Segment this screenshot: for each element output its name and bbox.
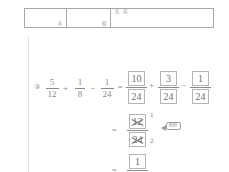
equals-sign-2: = — [112, 127, 117, 135]
given-fraction-3: 1 24 — [99, 78, 115, 99]
fraction-bar — [126, 87, 147, 88]
given-fraction-2-denominator: 8 — [73, 89, 87, 99]
step2-denominator: 24 — [133, 135, 143, 145]
fraction-bar — [127, 170, 148, 171]
given-fraction-2-numerator: 1 — [73, 78, 87, 88]
step1-denominator-box-1[interactable]: 24 — [128, 89, 145, 104]
given-fraction-1-numerator: 5 — [44, 78, 60, 88]
step1-numerator-box-2[interactable]: 3 — [160, 71, 177, 86]
step1-denominator-1: 24 — [132, 92, 142, 102]
fraction-bar — [190, 87, 211, 88]
fraction-bar — [127, 130, 148, 131]
plus-operator-2: + — [149, 81, 154, 90]
plus-operator-1: + — [63, 84, 68, 93]
given-fraction-1-denominator: 12 — [44, 89, 60, 99]
step1-boxed-fraction-3: 1 24 — [192, 71, 209, 104]
step1-denominator-box-2[interactable]: 24 — [160, 89, 177, 104]
given-fraction-3-denominator: 24 — [99, 89, 115, 99]
step1-boxed-fraction-2: 3 24 — [160, 71, 177, 104]
step1-numerator-box-3[interactable]: 1 — [192, 71, 209, 86]
step2-reduced-numerator: 1 — [150, 112, 154, 119]
year-cell-label: 年 — [58, 22, 62, 27]
problem-area: ③ 5 12 + 1 8 − 1 24 = 10 24 + 3 24 — [0, 34, 229, 172]
step2-reduced-denominator: 2 — [150, 138, 154, 145]
equals-sign-3: = — [112, 167, 117, 172]
step2-boxed-fraction: 12 24 — [129, 114, 146, 147]
year-cell[interactable]: 年 — [25, 9, 67, 27]
student-info-table: 年 組 名 前 — [24, 8, 214, 28]
minus-operator-1: − — [90, 84, 95, 93]
step1-denominator-3: 24 — [196, 92, 206, 102]
given-fraction-2: 1 8 — [73, 78, 87, 99]
name-cell[interactable]: 名 前 — [111, 9, 213, 27]
step2-numerator-box[interactable]: 12 — [129, 114, 146, 129]
minus-operator-2: − — [181, 81, 186, 90]
step1-denominator-2: 24 — [164, 92, 174, 102]
name-cell-label: 名 前 — [115, 10, 129, 15]
reduction-callout: 約分 — [166, 122, 181, 130]
fraction-bar — [158, 87, 179, 88]
step1-numerator-2: 3 — [166, 74, 171, 84]
answer-boxed-fraction: 1 2 — [129, 154, 146, 172]
given-fraction-1: 5 12 — [44, 78, 60, 99]
step1-numerator-box-1[interactable]: 10 — [128, 71, 145, 86]
step2-denominator-box[interactable]: 24 — [129, 132, 146, 147]
given-fraction-3-numerator: 1 — [99, 78, 115, 88]
answer-numerator-box[interactable]: 1 — [129, 154, 146, 169]
class-cell[interactable]: 組 — [67, 9, 111, 27]
equals-sign-1: = — [118, 84, 123, 92]
step2-numerator: 12 — [133, 117, 143, 127]
step1-numerator-3: 1 — [198, 74, 203, 84]
step1-denominator-box-3[interactable]: 24 — [192, 89, 209, 104]
step1-numerator-1: 10 — [132, 74, 142, 84]
answer-numerator: 1 — [135, 157, 140, 167]
question-number: ③ — [34, 84, 40, 91]
step1-boxed-fraction-1: 10 24 — [128, 71, 145, 104]
class-cell-label: 組 — [102, 22, 106, 27]
